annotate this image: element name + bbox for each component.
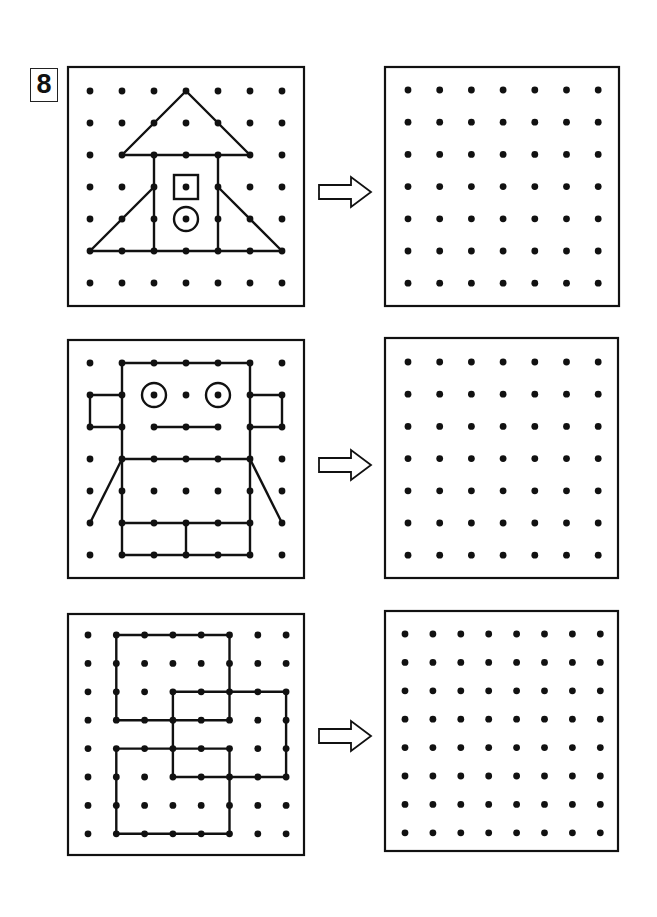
grid-dot[interactable] (468, 183, 475, 190)
grid-dot[interactable] (468, 552, 475, 559)
grid-dot[interactable] (513, 659, 520, 666)
grid-dot[interactable] (597, 829, 604, 836)
grid-dot[interactable] (436, 119, 443, 126)
grid-dot[interactable] (500, 455, 507, 462)
grid-dot[interactable] (402, 659, 409, 666)
grid-dot[interactable] (485, 631, 492, 638)
grid-dot[interactable] (436, 280, 443, 287)
grid-dot[interactable] (468, 423, 475, 430)
grid-dot[interactable] (563, 280, 570, 287)
grid-dot[interactable] (500, 119, 507, 126)
grid-dot[interactable] (457, 687, 464, 694)
grid-dot[interactable] (531, 119, 538, 126)
grid-dot[interactable] (563, 423, 570, 430)
grid-dot[interactable] (468, 391, 475, 398)
grid-dot[interactable] (436, 423, 443, 430)
grid-dot[interactable] (457, 716, 464, 723)
grid-dot[interactable] (569, 631, 576, 638)
grid-dot[interactable] (531, 87, 538, 94)
grid-dot[interactable] (597, 744, 604, 751)
grid-dot[interactable] (500, 280, 507, 287)
grid-dot[interactable] (500, 520, 507, 527)
grid-dot[interactable] (436, 183, 443, 190)
grid-dot[interactable] (569, 773, 576, 780)
grid-dot[interactable] (500, 423, 507, 430)
grid-dot[interactable] (485, 801, 492, 808)
grid-dot[interactable] (595, 248, 602, 255)
grid-dot[interactable] (436, 248, 443, 255)
grid-dot[interactable] (563, 215, 570, 222)
grid-dot[interactable] (513, 829, 520, 836)
grid-dot[interactable] (531, 248, 538, 255)
grid-dot[interactable] (563, 455, 570, 462)
grid-dot[interactable] (531, 520, 538, 527)
grid-dot[interactable] (563, 87, 570, 94)
grid-dot[interactable] (468, 487, 475, 494)
grid-dot[interactable] (541, 631, 548, 638)
grid-dot[interactable] (485, 687, 492, 694)
grid-dot[interactable] (595, 359, 602, 366)
grid-dot[interactable] (563, 520, 570, 527)
grid-dot[interactable] (597, 659, 604, 666)
grid-dot[interactable] (468, 248, 475, 255)
grid-dot[interactable] (595, 423, 602, 430)
grid-dot[interactable] (405, 423, 412, 430)
grid-dot[interactable] (457, 773, 464, 780)
grid-dot[interactable] (468, 280, 475, 287)
grid-dot[interactable] (500, 391, 507, 398)
grid-dot[interactable] (513, 631, 520, 638)
grid-dot[interactable] (563, 359, 570, 366)
grid-dot[interactable] (436, 151, 443, 158)
grid-dot[interactable] (402, 829, 409, 836)
grid-dot[interactable] (531, 215, 538, 222)
grid-dot[interactable] (595, 552, 602, 559)
grid-dot[interactable] (430, 687, 437, 694)
grid-dot[interactable] (531, 552, 538, 559)
grid-dot[interactable] (500, 248, 507, 255)
grid-dot[interactable] (563, 391, 570, 398)
grid-dot[interactable] (595, 215, 602, 222)
grid-dot[interactable] (500, 215, 507, 222)
grid-dot[interactable] (405, 391, 412, 398)
grid-dot[interactable] (595, 455, 602, 462)
grid-dot[interactable] (595, 280, 602, 287)
grid-dot[interactable] (436, 87, 443, 94)
grid-dot[interactable] (595, 183, 602, 190)
grid-dot[interactable] (531, 280, 538, 287)
grid-dot[interactable] (405, 280, 412, 287)
grid-dot[interactable] (405, 552, 412, 559)
grid-dot[interactable] (457, 829, 464, 836)
grid-dot[interactable] (402, 687, 409, 694)
grid-dot[interactable] (485, 659, 492, 666)
grid-dot[interactable] (457, 744, 464, 751)
grid-dot[interactable] (485, 716, 492, 723)
grid-dot[interactable] (485, 829, 492, 836)
grid-dot[interactable] (405, 359, 412, 366)
grid-dot[interactable] (541, 773, 548, 780)
grid-dot[interactable] (436, 359, 443, 366)
grid-dot[interactable] (430, 659, 437, 666)
grid-dot[interactable] (436, 487, 443, 494)
blank-panel-overlapping-squares[interactable] (385, 611, 618, 851)
grid-dot[interactable] (436, 391, 443, 398)
grid-dot[interactable] (595, 151, 602, 158)
grid-dot[interactable] (457, 631, 464, 638)
grid-dot[interactable] (402, 801, 409, 808)
grid-dot[interactable] (468, 87, 475, 94)
grid-dot[interactable] (541, 829, 548, 836)
grid-dot[interactable] (468, 215, 475, 222)
grid-dot[interactable] (563, 151, 570, 158)
grid-dot[interactable] (457, 659, 464, 666)
grid-dot[interactable] (457, 801, 464, 808)
grid-dot[interactable] (500, 151, 507, 158)
blank-panel-rocket-house[interactable] (385, 67, 619, 306)
grid-dot[interactable] (405, 87, 412, 94)
grid-dot[interactable] (597, 631, 604, 638)
grid-dot[interactable] (405, 520, 412, 527)
grid-dot[interactable] (531, 151, 538, 158)
grid-dot[interactable] (405, 215, 412, 222)
grid-dot[interactable] (569, 687, 576, 694)
grid-dot[interactable] (531, 183, 538, 190)
grid-dot[interactable] (597, 801, 604, 808)
grid-dot[interactable] (531, 359, 538, 366)
